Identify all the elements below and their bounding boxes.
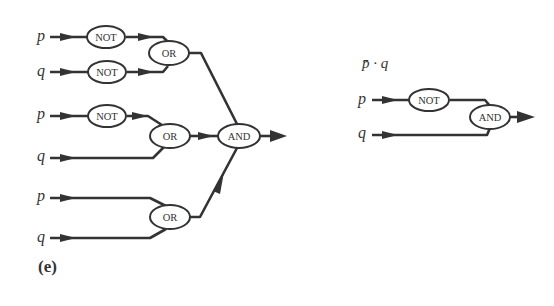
svg-text:NOT: NOT bbox=[96, 67, 118, 78]
wires-group-1 bbox=[50, 33, 238, 126]
wires-group-2 bbox=[50, 112, 218, 162]
svg-text:AND: AND bbox=[228, 131, 251, 142]
logic-circuits-diagram: p q p q p q NOT bbox=[0, 0, 554, 306]
right-input-label-p: p bbox=[357, 90, 366, 108]
input-label-q1: q bbox=[37, 62, 45, 80]
output-arrow bbox=[270, 130, 287, 142]
svg-text:OR: OR bbox=[163, 131, 178, 142]
or-gate-2: OR bbox=[150, 124, 190, 148]
svg-text:OR: OR bbox=[163, 212, 178, 223]
svg-text:AND: AND bbox=[479, 112, 502, 123]
right-input-label-q: q bbox=[358, 124, 366, 142]
svg-text:NOT: NOT bbox=[96, 111, 118, 122]
svg-text:OR: OR bbox=[162, 48, 177, 59]
and-gate-main: AND bbox=[218, 124, 260, 148]
boolean-expression: p̄ · q bbox=[361, 55, 389, 71]
right-and-gate: AND bbox=[470, 105, 510, 129]
input-label-q2: q bbox=[37, 147, 45, 165]
svg-text:NOT: NOT bbox=[95, 32, 117, 43]
figure-caption: (e) bbox=[38, 257, 57, 276]
input-label-p1: p bbox=[36, 27, 45, 45]
not-gate-2: NOT bbox=[88, 61, 126, 83]
right-not-gate: NOT bbox=[409, 89, 449, 111]
input-label-p2: p bbox=[36, 105, 45, 123]
input-label-q3: q bbox=[37, 228, 45, 246]
wires-group-3 bbox=[50, 148, 237, 242]
or-gate-1: OR bbox=[149, 41, 189, 65]
not-gate-1: NOT bbox=[87, 26, 125, 48]
input-label-p3: p bbox=[36, 187, 45, 205]
not-gate-3: NOT bbox=[88, 105, 126, 127]
or-gate-3: OR bbox=[150, 205, 190, 229]
svg-text:NOT: NOT bbox=[418, 95, 440, 106]
